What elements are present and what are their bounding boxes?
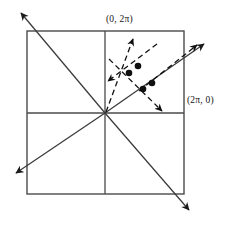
dashed-ray-down-left	[108, 44, 157, 81]
point-marker	[149, 80, 156, 87]
top-vertex-label: (0, 2π)	[106, 14, 133, 24]
point-marker	[135, 63, 142, 70]
figure-root: (0, 2π) (2π, 0)	[0, 0, 229, 226]
dashed-ray-up-right-outer	[139, 45, 197, 91]
point-marker	[126, 70, 133, 77]
ray-down-right	[105, 113, 189, 210]
ray-down-left	[16, 113, 105, 173]
right-vertex-label: (2π, 0)	[187, 95, 214, 105]
point-marker	[140, 86, 147, 93]
diagram-canvas	[0, 0, 229, 226]
ray-up-left	[21, 13, 105, 113]
